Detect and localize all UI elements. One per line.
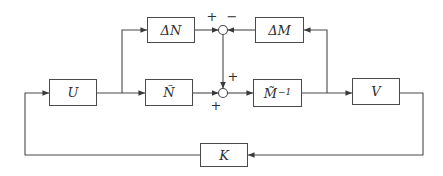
block-n-tilde: Ñ: [145, 79, 193, 106]
block-k-label: K: [219, 149, 229, 162]
connector-branch-to-delta-n: [122, 30, 147, 93]
block-diagram: ΔN ΔM U Ñ M̃−1 V K + − + +: [0, 0, 443, 176]
block-u: U: [49, 79, 97, 106]
summing-junction-top: [219, 26, 228, 35]
block-v: V: [352, 78, 400, 105]
summing-junction-middle: [219, 89, 228, 98]
block-k: K: [200, 143, 248, 167]
top-junction-plus-sign: +: [205, 9, 219, 24]
block-delta-n: ΔN: [147, 17, 195, 43]
block-delta-n-label: ΔN: [161, 24, 182, 37]
block-delta-m: ΔM: [255, 17, 304, 43]
middle-junction-left-plus-sign: +: [209, 98, 223, 113]
block-v-label: V: [371, 85, 380, 98]
block-m-tilde-inverse-exponent: −1: [278, 88, 291, 97]
block-m-tilde-inverse-base: M̃: [264, 87, 277, 100]
middle-junction-top-plus-sign: +: [226, 69, 240, 84]
block-n-tilde-label: Ñ: [163, 86, 174, 99]
connector-branch-to-delta-m: [304, 30, 327, 93]
block-delta-m-label: ΔM: [268, 24, 291, 37]
top-junction-minus-sign: −: [225, 9, 239, 24]
block-u-label: U: [68, 86, 79, 99]
block-m-tilde-inverse: M̃−1: [253, 79, 302, 107]
